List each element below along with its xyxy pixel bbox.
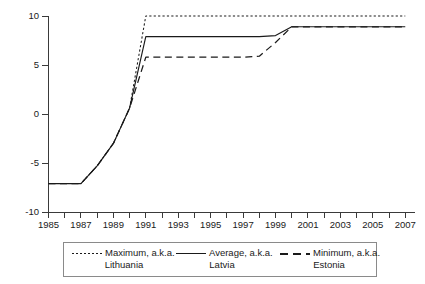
chart-legend: Maximum, a.k.a.LithuaniaAverage, a.k.a.L… <box>63 242 377 277</box>
x-tick-label: 1993 <box>168 219 189 230</box>
legend-entries: Maximum, a.k.a.LithuaniaAverage, a.k.a.L… <box>64 243 376 276</box>
y-tick-label: 0 <box>34 108 39 119</box>
dashed-line-key <box>280 253 310 255</box>
x-tick-label: 1999 <box>265 219 286 230</box>
y-tick-label: -5 <box>31 157 39 168</box>
legend-label-sub: Latvia <box>172 258 272 272</box>
legend-label-sub: Estonia <box>279 258 379 272</box>
y-tick-label: 5 <box>34 59 39 70</box>
x-tick-label: 2003 <box>330 219 351 230</box>
x-tick-label: 1991 <box>135 219 156 230</box>
x-tick-label: 2001 <box>297 219 318 230</box>
legend-label-sub: Lithuania <box>74 258 174 272</box>
x-tick-label: 1989 <box>103 219 124 230</box>
x-tick-label: 1987 <box>70 219 91 230</box>
x-tick-label: 2007 <box>395 219 416 230</box>
x-axis: 1985198719891991199319951997199920012003… <box>38 213 416 231</box>
x-tick-marks <box>49 213 406 219</box>
y-tick-label: -10 <box>25 206 39 217</box>
series-line-minimum <box>49 27 406 184</box>
x-tick-label: 2005 <box>362 219 383 230</box>
y-tick-label: 10 <box>28 10 39 21</box>
y-tick-marks <box>42 16 49 212</box>
x-tick-label: 1995 <box>200 219 221 230</box>
data-series-group <box>49 16 406 184</box>
x-tick-label: 1985 <box>38 219 59 230</box>
dotted-line-key <box>72 253 102 254</box>
y-axis: 1050-5-10 <box>25 10 48 217</box>
chart-container: 1050-5-10 198519871989199119931995199719… <box>0 0 425 284</box>
x-tick-label: 1997 <box>233 219 254 230</box>
solid-line-key <box>176 253 206 254</box>
x-tick-labels: 1985198719891991199319951997199920012003… <box>38 219 416 230</box>
y-tick-labels: 1050-5-10 <box>25 10 39 217</box>
